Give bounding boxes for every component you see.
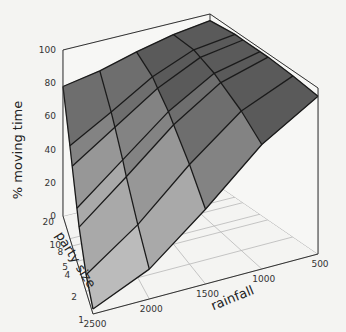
surface-chart: 020406080100 124581020 50010001500200025… [0,0,346,332]
z-tick-label: 60 [45,111,57,121]
rainfall-tick-label: 1000 [252,274,275,284]
z-tick-label: 20 [45,178,57,188]
z-tick-label: 40 [45,145,57,155]
rainfall-tick-label: 500 [311,259,328,269]
z-axis-ticks: 020406080100 [39,45,56,221]
z-axis-label: % moving time [10,101,25,199]
party-size-tick-label: 20 [43,217,55,227]
rainfall-tick-label: 2500 [84,319,107,329]
rainfall-tick-label: 2000 [140,304,163,314]
rainfall-axis-label: rainfall [209,282,256,313]
party-size-tick-label: 5 [62,262,68,272]
z-tick-label: 100 [39,45,56,55]
z-tick-label: 80 [45,78,57,88]
party-size-tick-label: 2 [71,292,77,302]
